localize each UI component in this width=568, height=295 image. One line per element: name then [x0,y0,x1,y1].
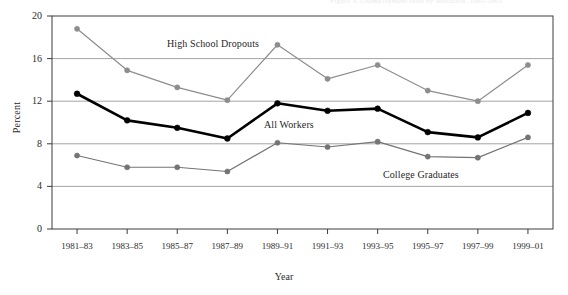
data-point-2-9 [525,135,530,140]
series-annotation-2: College Graduates [383,169,459,180]
data-point-1-8 [475,135,481,141]
x-tick-label: 1999–01 [498,241,558,251]
data-point-2-1 [125,165,130,170]
data-point-1-2 [174,125,180,131]
series-annotation-1: All Workers [264,119,314,130]
data-point-1-5 [325,108,331,114]
data-point-2-5 [325,144,330,149]
data-point-2-7 [425,154,430,159]
data-point-2-6 [375,139,380,144]
data-point-1-0 [74,91,80,97]
data-point-0-8 [475,99,480,104]
data-point-0-2 [175,85,180,90]
series-line-1 [77,94,528,139]
data-point-1-1 [124,117,130,123]
data-point-2-3 [225,169,230,174]
data-point-0-9 [525,62,530,67]
series-annotation-0: High School Dropouts [167,38,259,49]
data-point-1-9 [525,110,531,116]
data-point-0-6 [375,62,380,67]
data-point-1-7 [425,129,431,135]
y-tick-label: 0 [16,224,42,234]
chart-container: Figure 3. Unemployment rates by educatio… [0,0,568,295]
data-point-2-8 [475,155,480,160]
y-tick-label: 8 [16,139,42,149]
data-point-0-5 [325,76,330,81]
y-tick-label: 12 [16,96,42,106]
data-point-0-3 [225,98,230,103]
data-point-1-4 [275,100,281,106]
data-point-1-3 [224,136,230,142]
data-point-0-7 [425,88,430,93]
y-tick-label: 4 [16,181,42,191]
data-point-2-2 [175,165,180,170]
y-tick-label: 16 [16,54,42,64]
series-line-0 [77,29,528,101]
y-tick-label: 20 [16,11,42,21]
data-point-0-0 [74,26,79,31]
data-point-2-0 [74,153,79,158]
data-point-1-6 [375,106,381,112]
x-axis-title: Year [0,271,568,282]
series-line-2 [77,137,528,171]
data-point-0-1 [125,68,130,73]
data-point-2-4 [275,140,280,145]
data-point-0-4 [275,42,280,47]
